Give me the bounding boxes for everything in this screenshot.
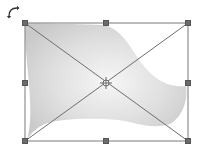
- handle-middle-left[interactable]: [22, 80, 28, 86]
- transform-stage: [0, 0, 199, 147]
- handle-top-right[interactable]: [185, 20, 191, 26]
- handle-bottom-left[interactable]: [22, 138, 28, 144]
- handle-top-center[interactable]: [103, 20, 109, 26]
- handle-bottom-right[interactable]: [185, 138, 191, 144]
- handle-middle-right[interactable]: [185, 80, 191, 86]
- rotate-arrow-icon[interactable]: [6, 5, 20, 19]
- handle-bottom-center[interactable]: [103, 138, 109, 144]
- handle-top-left[interactable]: [22, 20, 28, 26]
- editor-canvas[interactable]: Warped shape selection: [0, 0, 199, 147]
